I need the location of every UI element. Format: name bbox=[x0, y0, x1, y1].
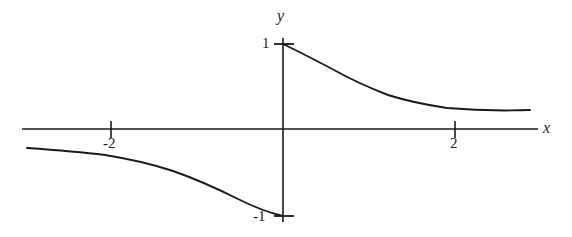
y-axis-label: y bbox=[277, 8, 284, 24]
x-tick-label-neg2: -2 bbox=[103, 136, 116, 151]
y-tick-label-one: 1 bbox=[262, 36, 270, 51]
function-graph-figure: -2 2 1 -1 x y bbox=[0, 0, 572, 237]
plot-canvas bbox=[0, 0, 572, 237]
x-tick-label-pos2: 2 bbox=[450, 136, 458, 151]
y-tick-label-neg-one: -1 bbox=[253, 209, 266, 224]
x-axis-label: x bbox=[543, 120, 550, 136]
curve-left-branch bbox=[27, 148, 283, 216]
curve-right-branch bbox=[283, 44, 530, 110]
